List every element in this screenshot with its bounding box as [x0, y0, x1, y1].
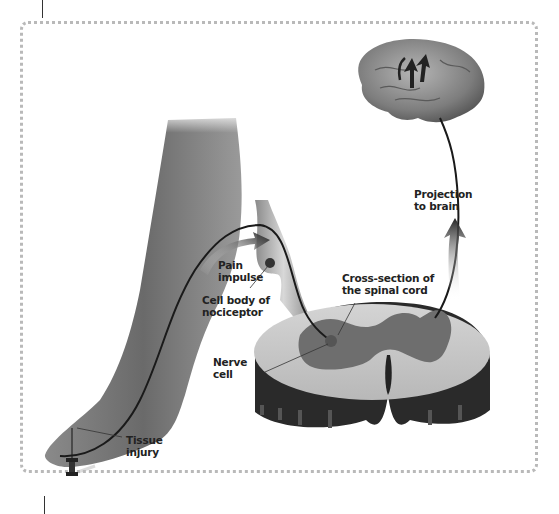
spinal-cord-cross-section — [254, 302, 490, 428]
label-cell-body: Cell body of nociceptor — [202, 294, 270, 318]
label-projection: Projection to brain — [414, 188, 472, 212]
label-tissue-injury: Tissue injury — [126, 434, 163, 458]
label-pain-impulse: Pain impulse — [218, 259, 263, 283]
label-cross-section: Cross-section of the spinal cord — [342, 272, 434, 296]
pain-pathway-illustration — [0, 0, 559, 514]
cell-body-icon — [265, 258, 275, 268]
nerve-cell-icon — [325, 335, 337, 347]
projection-arrow-icon — [444, 218, 466, 300]
label-nerve-cell: Nerve cell — [213, 356, 247, 380]
brain-illustration — [358, 39, 484, 122]
leg-illustration — [45, 110, 245, 467]
